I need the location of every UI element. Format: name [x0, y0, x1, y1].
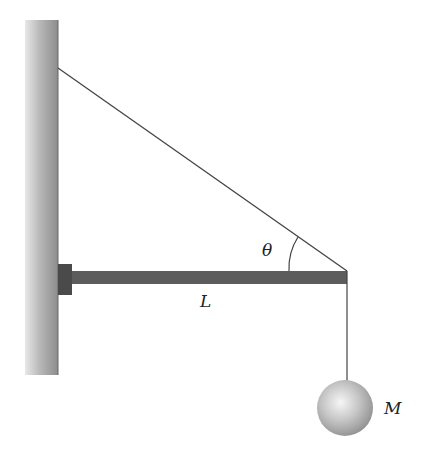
- beam: [72, 271, 347, 284]
- bracket: [58, 264, 72, 295]
- cable: [58, 68, 347, 271]
- wall: [25, 20, 58, 375]
- angle-label: θ: [262, 240, 272, 260]
- angle-arc: [289, 237, 298, 271]
- length-label: L: [200, 291, 211, 311]
- diagram-svg: [0, 0, 427, 452]
- mass-label: M: [384, 398, 401, 418]
- mass-ball: [317, 380, 373, 436]
- diagram-canvas: θ L M: [0, 0, 427, 452]
